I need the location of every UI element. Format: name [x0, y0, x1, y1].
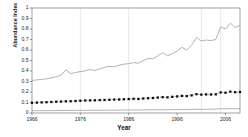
series-marker [200, 93, 202, 95]
y-axis-tick-label: 0.4 [13, 68, 29, 73]
series-marker [186, 95, 188, 97]
series-marker [215, 93, 217, 95]
series-line-upper-line [32, 23, 240, 80]
x-axis-title: Year [0, 124, 248, 131]
series-marker [210, 93, 212, 95]
series-marker [113, 98, 115, 100]
series-marker [103, 99, 105, 101]
x-axis-tick-label: 1966 [17, 117, 47, 122]
series-marker [45, 101, 47, 103]
series-marker [152, 97, 154, 99]
series-marker [36, 101, 38, 103]
series-marker [60, 100, 62, 102]
x-axis-tick-label: 1976 [65, 117, 95, 122]
series-marker [220, 91, 222, 93]
series-marker [161, 96, 163, 98]
x-axis-tick-label: 1996 [162, 117, 192, 122]
series-marker [118, 98, 120, 100]
series-marker [137, 98, 139, 100]
series-marker [108, 99, 110, 101]
series-marker [55, 101, 57, 103]
series-marker [74, 100, 76, 102]
series-marker [70, 100, 72, 102]
series-marker [41, 101, 43, 103]
series-line-lower-line [32, 109, 240, 111]
series-marker [123, 98, 125, 100]
series-marker [147, 97, 149, 99]
series-marker [166, 96, 168, 98]
series-marker [31, 102, 33, 104]
y-axis-tick-label: 1 [13, 5, 29, 10]
series-marker [205, 93, 207, 95]
series-marker [181, 95, 183, 97]
series-marker [89, 99, 91, 101]
series-marker [142, 97, 144, 99]
y-axis-tick-label: 0.7 [13, 37, 29, 42]
series-marker [50, 101, 52, 103]
y-axis-tick-label: 0.5 [13, 58, 29, 63]
y-axis-tick-label: 0 [13, 110, 29, 115]
series-marker [234, 91, 236, 93]
series-marker [94, 99, 96, 101]
series-marker [224, 92, 226, 94]
series-marker [65, 100, 67, 102]
y-axis-tick-label: 0.1 [13, 100, 29, 105]
series-marker [84, 99, 86, 101]
series-marker [128, 98, 130, 100]
series-marker [171, 96, 173, 98]
series-marker [99, 99, 101, 101]
y-axis-tick-label: 0.6 [13, 47, 29, 52]
y-axis-tick-label: 0.3 [13, 79, 29, 84]
plot-frame [32, 8, 240, 113]
x-axis-tick-label: 1986 [114, 117, 144, 122]
series-marker [157, 96, 159, 98]
series-marker [195, 93, 197, 95]
y-axis-tick-label: 0.8 [13, 26, 29, 31]
series-marker [132, 98, 134, 100]
series-marker [239, 91, 241, 93]
series-marker [229, 91, 231, 93]
y-axis-tick-label: 0.9 [13, 16, 29, 21]
series-line-middle-dotted-line [32, 92, 240, 103]
series-marker [176, 95, 178, 97]
y-axis-tick-label: 0.2 [13, 89, 29, 94]
x-axis-tick-label: 2006 [210, 117, 240, 122]
series-marker [79, 100, 81, 102]
series-marker [190, 94, 192, 96]
chart-figure: Abundance Index Year 00.10.20.30.40.50.6… [0, 0, 248, 137]
